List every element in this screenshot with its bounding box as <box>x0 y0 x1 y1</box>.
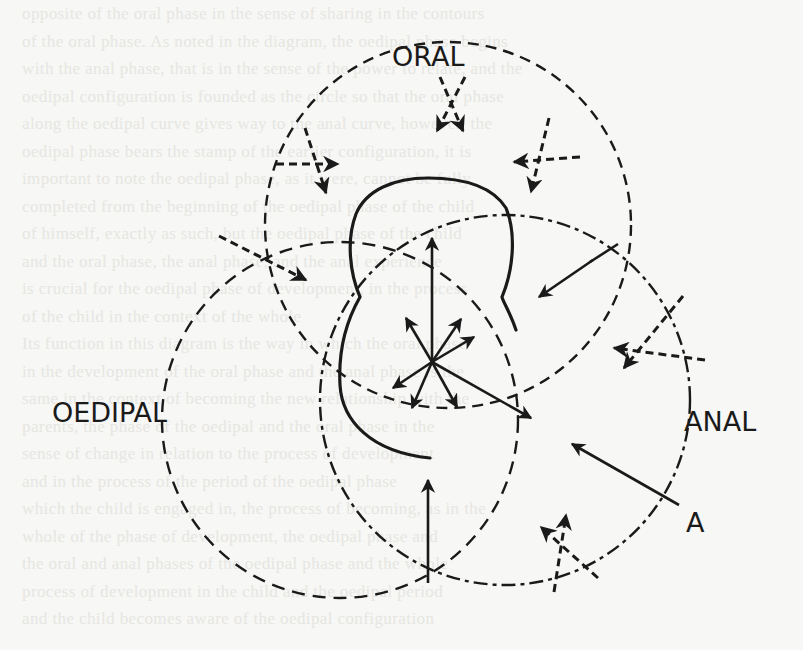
psychosexual-phases-diagram: ORAL OEDIPAL ANAL A <box>0 0 803 650</box>
label-oedipal: OEDIPAL <box>52 397 167 428</box>
label-point-a: A <box>686 507 705 538</box>
point-a-arrow <box>572 444 679 505</box>
upper-right-intersection-arrow <box>539 244 618 297</box>
label-oral: ORAL <box>392 41 464 72</box>
solid-boundary-curve <box>340 178 516 458</box>
anal-right-dashed-arrows <box>614 296 705 368</box>
oedipal-upper-dashed-arrow <box>219 236 306 280</box>
label-anal: ANAL <box>684 406 756 437</box>
anal-circle <box>320 215 690 585</box>
oral-top-dashed-arrows <box>437 77 465 131</box>
oral-right-dashed-arrows <box>514 118 580 192</box>
oedipal-circle <box>162 242 518 598</box>
oral-left-dashed-arrows <box>276 128 338 193</box>
